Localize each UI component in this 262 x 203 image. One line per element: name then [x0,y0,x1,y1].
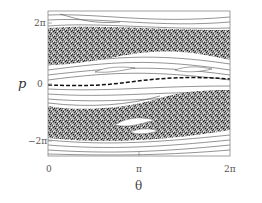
dashed-orbit [48,78,230,86]
x-tick-2pi: 2π [224,164,236,174]
y-axis-label: p [18,76,26,91]
island [95,67,135,72]
y-tick-0: 0 [37,79,43,89]
upper-chaotic-region [48,27,230,65]
phase-space-plot [0,0,262,203]
x-tick-0: 0 [46,164,52,174]
plot-area [48,14,230,155]
x-axis-label: θ [135,179,142,193]
y-tick-2pi: 2π [34,18,46,28]
x-tick-pi: π [136,164,142,174]
island [175,67,212,72]
y-tick-neg-2pi: −2π [28,136,47,146]
